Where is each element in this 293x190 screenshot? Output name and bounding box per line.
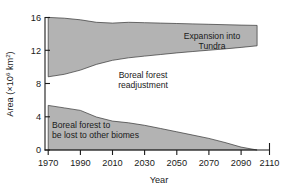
area-chart-svg: 0 4 8 12 16 1970 1990 2010 2030 2050 207…: [0, 0, 293, 190]
annotation-tundra-line-1: Expansion into: [184, 31, 241, 41]
y-tick-label-2: 8: [36, 79, 41, 89]
x-tick-label-4: 2050: [167, 158, 187, 168]
annotation-readjustment-line-2: readjustment: [118, 80, 168, 90]
y-tick-label-1: 4: [36, 112, 41, 122]
annotation-lost-line-1: Boreal forest to: [52, 120, 110, 130]
y-tick-label-0: 0: [36, 145, 41, 155]
x-tick-label-1: 1990: [70, 158, 90, 168]
y-axis-title-mid: km: [5, 57, 15, 72]
x-tick-label-0: 1970: [38, 158, 58, 168]
x-tick-label-2: 2010: [102, 158, 122, 168]
chart-figure: 0 4 8 12 16 1970 1990 2010 2030 2050 207…: [0, 0, 293, 190]
annotation-lost-line-2: be lost to other biomes: [52, 130, 139, 140]
x-tick-label-3: 2030: [134, 158, 154, 168]
annotation-tundra-line-2: Tundra: [199, 41, 226, 51]
y-axis-title: Area (×106 km2): [4, 51, 15, 116]
y-axis-title-base: Area (×10: [5, 76, 15, 117]
x-tick-label-6: 2090: [231, 158, 251, 168]
x-tick-label-7: 2110: [260, 158, 280, 168]
y-tick-label-3: 12: [31, 46, 41, 56]
y-axis-title-tail: ): [5, 51, 15, 54]
y-tick-label-4: 16: [31, 13, 41, 23]
x-tick-label-5: 2070: [199, 158, 219, 168]
annotation-boreal-forest-readjustment: Boreal forest readjustment: [118, 70, 168, 90]
annotation-readjustment-line-1: Boreal forest: [119, 70, 168, 80]
x-axis-title: Year: [150, 175, 169, 185]
svg-text:Area (×106 km2): Area (×106 km2): [4, 51, 15, 116]
